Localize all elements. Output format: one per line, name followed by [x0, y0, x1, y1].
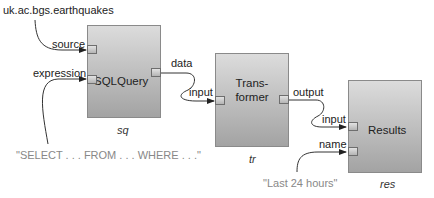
source-literal: uk.ac.bgs.earthquakes — [3, 4, 114, 16]
wire-expression — [42, 79, 86, 144]
wire-name — [297, 152, 346, 172]
port-output[interactable] — [279, 95, 289, 104]
port-input[interactable] — [348, 122, 358, 131]
port-source[interactable] — [87, 45, 97, 54]
port-label-output: output — [293, 86, 324, 98]
component-type-label-line2: former — [216, 90, 288, 104]
instance-name-sq: sq — [117, 124, 129, 136]
port-label-name: name — [319, 138, 347, 150]
port-label-input: input — [189, 86, 213, 98]
instance-name-res: res — [380, 178, 395, 190]
component-transformer[interactable]: Trans- former — [215, 53, 289, 147]
port-input[interactable] — [215, 96, 225, 105]
component-sqlquery[interactable]: SQLQuery — [87, 25, 161, 118]
instance-name-tr: tr — [249, 153, 256, 165]
component-results[interactable]: Results — [348, 80, 422, 173]
port-label-data: data — [171, 57, 192, 69]
component-type-label-line1: Trans- — [216, 76, 288, 90]
port-label-expression: expression — [33, 67, 86, 79]
name-literal: "Last 24 hours" — [263, 177, 337, 189]
expression-literal: "SELECT . . . FROM . . . WHERE . . ." — [16, 149, 201, 161]
port-name[interactable] — [348, 147, 358, 156]
port-label-source: source — [52, 38, 85, 50]
component-type-label: SQLQuery — [94, 74, 148, 88]
port-expression[interactable] — [87, 75, 97, 84]
workflow-diagram: uk.ac.bgs.earthquakes "SELECT . . . FROM… — [0, 0, 434, 198]
port-data[interactable] — [151, 68, 161, 77]
component-type-label: Results — [368, 123, 406, 137]
port-label-input: input — [322, 113, 346, 125]
